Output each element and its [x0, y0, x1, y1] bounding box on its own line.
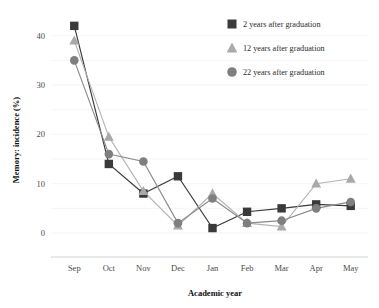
- legend-label: 22 years after graduation: [243, 68, 325, 77]
- legend-marker: [228, 20, 237, 29]
- x-axis-tick-label: Dec: [171, 263, 185, 273]
- chart-container: 010203040 SepOctNovDecJanFebMarAprMay 2 …: [0, 0, 379, 308]
- data-point-marker: [346, 198, 355, 207]
- data-point-marker: [208, 194, 217, 203]
- data-point-marker: [312, 204, 321, 213]
- legend-label: 12 years after graduation: [243, 44, 325, 53]
- data-point-marker: [174, 219, 183, 228]
- data-point-marker: [277, 216, 286, 225]
- x-axis-tick-label: Mar: [275, 263, 289, 273]
- data-point-marker: [105, 160, 113, 168]
- y-axis-tick-label: 10: [37, 179, 46, 189]
- legend-label: 2 years after graduation: [243, 20, 321, 29]
- y-axis-tick-label: 40: [37, 31, 46, 41]
- legend-marker: [227, 67, 237, 77]
- data-point-marker: [70, 22, 78, 30]
- data-point-marker: [243, 219, 252, 228]
- memory-incidence-line-chart: 010203040 SepOctNovDecJanFebMarAprMay 2 …: [0, 0, 379, 308]
- data-point-marker: [243, 208, 251, 216]
- y-axis-title: Memory: incidence (%): [11, 97, 21, 184]
- data-point-marker: [174, 172, 182, 180]
- y-axis-tick-label: 20: [37, 129, 46, 139]
- x-axis-tick-label: Feb: [241, 263, 254, 273]
- data-point-marker: [139, 157, 148, 166]
- x-axis-tick-label: May: [343, 263, 359, 273]
- y-axis-tick-label: 30: [37, 80, 46, 90]
- data-point-marker: [208, 224, 216, 232]
- y-axis-tick-label: 0: [41, 228, 45, 238]
- x-axis-tick-label: Sep: [68, 263, 81, 273]
- x-axis-tick-label: Nov: [136, 263, 151, 273]
- x-axis-tick-label: Apr: [310, 263, 323, 273]
- x-axis-tick-label: Oct: [103, 263, 116, 273]
- x-axis-ticks-group: SepOctNovDecJanFebMarAprMay: [68, 263, 359, 273]
- x-axis-title: Academic year: [188, 288, 242, 298]
- data-point-marker: [277, 204, 285, 212]
- data-point-marker: [105, 150, 114, 159]
- data-point-marker: [70, 56, 79, 65]
- x-axis-tick-label: Jan: [207, 263, 219, 273]
